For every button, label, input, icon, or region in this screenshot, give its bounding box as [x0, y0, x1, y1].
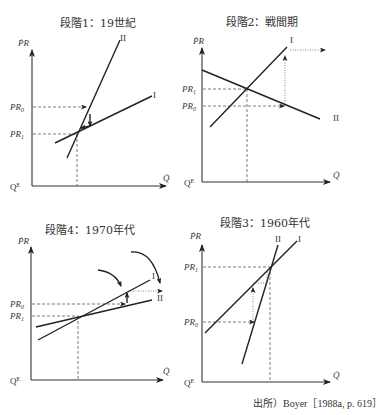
svg-text:II: II [157, 293, 163, 303]
panel-stage2: 段階2：戦間期 ṖR Q̇ QE PR1 PR0 I II [181, 15, 340, 188]
svg-text:PR1: PR1 [183, 262, 198, 273]
panel-title: 段階4：1970年代 [45, 223, 135, 237]
x-axis-label: Q̇ [163, 173, 170, 183]
line-ii [67, 40, 120, 158]
level-pr1: PR1 [9, 129, 24, 140]
panel-stage1: 段階1：19世紀 ṖR PR Q̇ QE PR0 PR1 II I [9, 16, 170, 192]
svg-text:Q̇: Q̇ [333, 370, 340, 380]
svg-text:I: I [152, 271, 155, 281]
svg-text:II: II [120, 33, 126, 43]
origin-label: QE [10, 182, 21, 192]
svg-text:I: I [298, 234, 301, 244]
svg-text:ṖR: ṖR [192, 36, 204, 46]
panel-title: 段階3：1960年代 [220, 216, 310, 230]
y-axis-label: ṖR [17, 38, 29, 48]
svg-text:QE: QE [10, 376, 21, 386]
source-citation: 出所）Boyer［1988a, p. 619］ [253, 395, 382, 410]
svg-text:PR0: PR0 [181, 101, 196, 112]
svg-text:PR0: PR0 [183, 317, 198, 328]
svg-text:II: II [275, 234, 281, 244]
svg-text:Q̇: Q̇ [333, 170, 340, 180]
svg-text:ṖR: ṖR [17, 236, 29, 246]
panel-title: 段階2：戦間期 [226, 15, 299, 29]
svg-text:PR1: PR1 [9, 311, 24, 322]
svg-text:II: II [333, 113, 339, 123]
line-i [55, 96, 152, 143]
stage-diagrams: 段階1：19世紀 ṖR PR Q̇ QE PR0 PR1 II I 段階2：戦… [0, 0, 387, 415]
svg-text:QE: QE [184, 178, 195, 188]
level-pr0: PR0 [9, 102, 24, 113]
svg-text:Q̇: Q̇ [163, 366, 170, 376]
panel-title: 段階1：19世紀 [60, 16, 136, 30]
svg-text:I: I [290, 35, 293, 45]
svg-text:ṖR: ṖR [189, 231, 201, 241]
svg-text:QE: QE [184, 378, 195, 388]
panel-stage3: 段階3：1960年代 ṖR Q̇ QE PR1 PR0 II I [183, 216, 340, 388]
svg-text:I: I [153, 90, 156, 100]
svg-text:PR1: PR1 [181, 84, 196, 95]
panel-stage4: 段階4：1970年代 ṖR Q̇ QE PR0 PR1 I II [9, 223, 170, 386]
svg-text:PR0: PR0 [9, 299, 24, 310]
